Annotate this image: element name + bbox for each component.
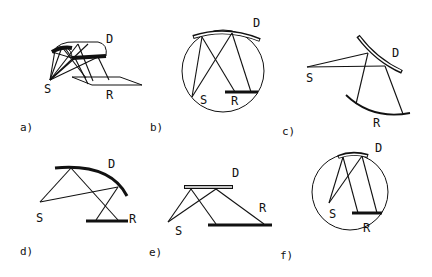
panel-b: D S R b) <box>150 16 264 134</box>
detector-label: D <box>375 141 382 155</box>
source-label: S <box>175 224 182 238</box>
detector-label: D <box>392 46 399 60</box>
drum-detector <box>52 42 106 58</box>
detector-label: D <box>232 166 239 180</box>
source-label: S <box>36 211 43 225</box>
rays <box>307 53 403 114</box>
panel-c: D S R c) <box>282 36 410 138</box>
scattering-circle <box>312 154 388 230</box>
panel-a: D S R a) <box>20 32 142 134</box>
panel-caption: c) <box>282 125 295 138</box>
panel-caption: e) <box>149 246 162 259</box>
receiver-label: R <box>231 94 239 108</box>
receiver-plane <box>72 77 142 85</box>
rays <box>168 189 264 224</box>
source-label: S <box>306 71 313 85</box>
receiver-label: R <box>259 201 267 215</box>
detector-label: D <box>253 16 260 30</box>
detector-label: D <box>108 157 115 171</box>
panel-e: D S R e) <box>149 166 272 259</box>
rays <box>329 156 377 213</box>
source-label: S <box>44 82 51 96</box>
receiver-arc <box>346 95 410 115</box>
panel-d: D S R d) <box>20 157 137 258</box>
panel-caption: f) <box>280 249 293 262</box>
detector-label: D <box>106 32 113 46</box>
source-label: S <box>329 207 336 221</box>
receiver-label: R <box>373 116 381 130</box>
rays <box>192 33 251 97</box>
panel-f: D S R f) <box>280 141 388 262</box>
receiver-label: R <box>129 212 137 226</box>
receiver-label: R <box>106 88 114 102</box>
panel-caption: a) <box>20 121 33 134</box>
panel-caption: b) <box>150 121 163 134</box>
source-label: S <box>200 93 207 107</box>
receiver-label: R <box>363 221 371 235</box>
figure-canvas: D S R a) D S R b) D S R c <box>0 0 432 277</box>
panel-caption: d) <box>20 245 33 258</box>
